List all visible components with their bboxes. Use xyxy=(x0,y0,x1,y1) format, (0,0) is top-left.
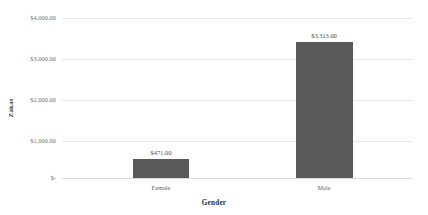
bar-male[interactable] xyxy=(296,42,353,178)
x-tick-label-female: Female xyxy=(113,185,209,191)
bar-female[interactable] xyxy=(133,159,189,178)
y-tick-label-3000: $3,000.00 xyxy=(4,56,56,62)
y-tick-label-4000: $4,000.00 xyxy=(4,15,56,21)
axis-baseline xyxy=(62,178,412,179)
gridline-2000 xyxy=(62,100,412,101)
bar-chart: Zakat $4,000.00 $3,000.00 $2,000.00 $1,0… xyxy=(0,0,428,215)
y-tick-label-zero: $- xyxy=(4,175,56,181)
y-tick-label-2000: $2,000.00 xyxy=(4,97,56,103)
y-tick-label-1000: $1,000.00 xyxy=(4,138,56,144)
gridline-3000 xyxy=(62,59,412,60)
x-axis-title: Gender xyxy=(0,200,428,207)
gridline-1000 xyxy=(62,141,412,142)
gridline-4000 xyxy=(62,18,412,19)
bar-value-label-male: $3,313.00 xyxy=(276,33,372,39)
bar-value-label-female: $471.00 xyxy=(113,150,209,156)
x-tick-label-male: Male xyxy=(276,185,372,191)
